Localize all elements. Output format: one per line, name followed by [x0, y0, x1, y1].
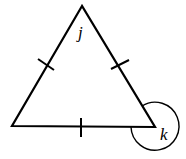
angle-label-k: k [160, 125, 168, 144]
triangle [12, 6, 155, 127]
triangle-diagram: j k [0, 0, 186, 159]
angle-label-j: j [76, 23, 83, 42]
